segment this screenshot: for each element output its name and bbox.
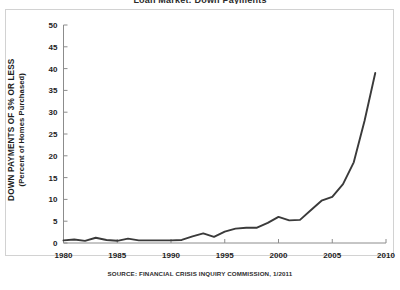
y-tick-label: 50 [49, 21, 58, 30]
y-tick-label: 10 [49, 195, 58, 204]
y-tick-label: 25 [49, 130, 58, 139]
y-tick-label: 20 [49, 152, 58, 161]
source-note: SOURCE: FINANCIAL CRISIS INQUIRY COMMISS… [0, 270, 400, 277]
x-tick-label: 2000 [270, 251, 288, 260]
y-tick-label: 35 [49, 86, 58, 95]
y-tick-label: 0 [53, 239, 58, 248]
x-tick-label: 1985 [108, 251, 126, 260]
y-tick-label: 40 [49, 65, 58, 74]
x-tick-label: 2010 [377, 251, 395, 260]
chart-svg: 0510152025303540455019801985199019952000… [0, 0, 400, 290]
y-tick-label: 15 [49, 174, 58, 183]
x-tick-label: 1980 [55, 251, 73, 260]
chart-page: Loan Market: Down Payments 0510152025303… [0, 0, 400, 290]
x-tick-label: 2005 [323, 251, 341, 260]
y-tick-label: 30 [49, 108, 58, 117]
x-tick-label: 1995 [216, 251, 234, 260]
y-tick-label: 5 [53, 217, 58, 226]
x-tick-label: 1990 [162, 251, 180, 260]
data-series-line [64, 73, 376, 241]
y-tick-label: 45 [49, 43, 58, 52]
plot-area: 0510152025303540455019801985199019952000… [0, 0, 400, 290]
